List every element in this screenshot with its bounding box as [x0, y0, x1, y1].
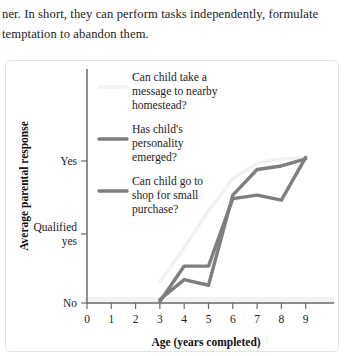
- legend-label-line: emerged?: [132, 151, 177, 164]
- x-tick-label-6: 6: [230, 313, 236, 325]
- plot-area-background: [87, 69, 332, 303]
- x-tick-label-5: 5: [206, 313, 212, 325]
- x-tick-label-2: 2: [133, 313, 139, 325]
- y-tick-label-yes: Yes: [60, 155, 77, 167]
- x-tick-label-7: 7: [254, 313, 260, 325]
- legend-label-line: purchase?: [132, 203, 178, 216]
- legend-label-line: Has child's: [132, 123, 183, 136]
- legend-label-line: message to nearby: [132, 85, 218, 98]
- x-tick-label-3: 3: [157, 313, 163, 325]
- document-text-block: ner. In short, they can perform tasks in…: [0, 0, 352, 44]
- y-tick-label-qualified-yes-second: yes: [62, 235, 78, 248]
- line-chart: Yes Qualified yes No Average parental re…: [6, 61, 340, 353]
- legend-label-line: homestead?: [132, 99, 187, 112]
- x-axis-title: Age (years completed): [151, 336, 260, 349]
- x-tick-label-0: 0: [84, 313, 90, 325]
- x-tick-label-1: 1: [108, 313, 114, 325]
- legend-label-line: Can child take a: [132, 71, 207, 84]
- y-tick-label-qualified: Qualified: [34, 221, 78, 233]
- x-tick-label-8: 8: [279, 313, 285, 325]
- y-tick-label-no: No: [63, 297, 77, 309]
- legend-label-line: shop for small: [132, 189, 198, 202]
- x-tick-label-9: 9: [303, 313, 309, 325]
- legend-label-line: Can child go to: [132, 175, 203, 188]
- document-text-line: temptation to abandon them.: [2, 24, 350, 44]
- chart-panel: Yes Qualified yes No Average parental re…: [5, 60, 339, 352]
- document-text-line: ner. In short, they can perform tasks in…: [2, 4, 350, 24]
- y-axis-title: Average parental response: [18, 121, 31, 251]
- legend-label-line: personality: [132, 137, 184, 150]
- x-tick-label-4: 4: [181, 313, 187, 325]
